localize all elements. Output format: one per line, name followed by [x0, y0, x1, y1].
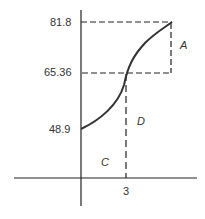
y-label-bottom: 48.9 [49, 124, 70, 135]
region-label-d: D [137, 116, 145, 127]
diagram-canvas [0, 0, 205, 219]
region-label-a: A [180, 40, 187, 51]
region-label-c: C [101, 157, 109, 168]
y-label-top: 81.8 [50, 17, 71, 28]
x-label: 3 [123, 186, 129, 197]
y-label-mid: 65.36 [44, 67, 72, 78]
